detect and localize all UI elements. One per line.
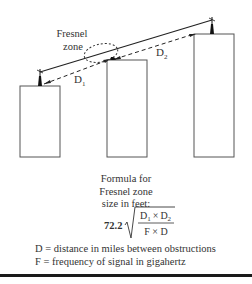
formula-caption: Formula for Fresnel zone size in feet: xyxy=(0,173,252,211)
left-building xyxy=(20,86,60,157)
middle-building xyxy=(107,60,147,157)
caption-line-3: size in feet: xyxy=(0,198,252,211)
right-antenna-icon xyxy=(209,17,215,34)
svg-text:D1×D2: D1×D2 xyxy=(140,210,172,223)
legend-d: D = distance in miles between obstructio… xyxy=(35,243,216,256)
fresnel-zone-label: Fresnel xyxy=(57,28,88,39)
fresnel-zone-label-2: zone xyxy=(63,41,83,52)
d2-label: D2 xyxy=(156,46,168,61)
right-building xyxy=(194,34,234,157)
d1-label: D1 xyxy=(74,73,86,88)
fresnel-formula: 72.2 D1×D2 F × D xyxy=(104,207,175,238)
caption-line-2: Fresnel zone xyxy=(0,186,252,199)
fresnel-zone-diagram: Fresnel zone D1 D2 72.2 D1×D2 F × D xyxy=(0,0,252,284)
svg-text:72.2: 72.2 xyxy=(104,220,122,231)
caption-line-1: Formula for xyxy=(0,173,252,186)
bottom-rule xyxy=(0,274,252,277)
legend-f: F = frequency of signal in gigahertz xyxy=(35,256,186,269)
svg-text:F × D: F × D xyxy=(144,226,167,237)
